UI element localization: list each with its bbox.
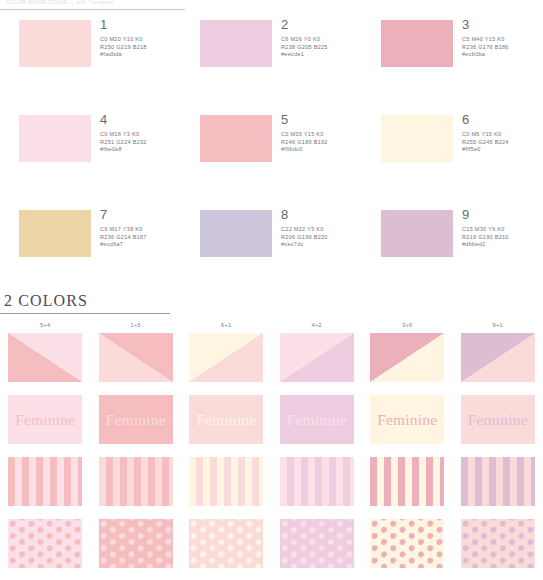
color-chip[interactable] xyxy=(381,210,453,257)
color-chip-meta: 7C9 M17 Y38 K0R236 G214 B167#ecd6a7 xyxy=(100,208,147,249)
dot-pattern xyxy=(461,519,535,568)
swatch-tile[interactable] xyxy=(189,519,263,568)
pair-stripes-6-1[interactable] xyxy=(181,457,272,519)
palette-swatch-6[interactable]: 6C0 M5 Y15 K0R255 G245 B224#fff5e0 xyxy=(362,113,543,208)
swatch-tile[interactable] xyxy=(280,457,354,506)
swatch-tile[interactable]: Feminine xyxy=(8,395,82,444)
swatch-tile[interactable] xyxy=(99,333,173,382)
pair-dots-1-5[interactable] xyxy=(91,519,182,580)
palette-swatch-9[interactable]: 9C15 M30 Y6 K0R219 G190 B210#dbbed2 xyxy=(362,208,543,303)
two-colors-grid: 5+41+56+14+23+69+1 FeminineFeminineFemin… xyxy=(0,320,543,580)
pair-stripes-4-2[interactable] xyxy=(272,457,363,519)
swatch-tile[interactable] xyxy=(280,333,354,382)
color-chip-number: 6 xyxy=(462,113,509,127)
pair-typography-5-4[interactable]: Feminine xyxy=(0,395,91,457)
color-chip[interactable] xyxy=(200,210,272,257)
pair-row-typography: FeminineFeminineFeminineFeminineFeminine… xyxy=(0,395,543,457)
pair-column-label-3-6: 3+6 xyxy=(362,320,453,333)
pair-stripes-1-5[interactable] xyxy=(91,457,182,519)
pair-diagonal-3-6[interactable] xyxy=(362,333,453,395)
color-chip-number: 4 xyxy=(100,113,147,127)
stripe-pattern xyxy=(189,457,263,506)
color-chip-meta: 4C0 M18 Y3 K0R251 G224 B232#fbe0e8 xyxy=(100,113,147,154)
color-chip-hex: #cec7dc xyxy=(281,241,328,249)
swatch-tile[interactable] xyxy=(461,333,535,382)
palette-swatch-1[interactable]: 1C0 M20 Y10 K0R250 G219 B218#fadbda xyxy=(0,18,181,113)
pair-stripes-3-6[interactable] xyxy=(362,457,453,519)
color-chip-rgb: R250 G219 B218 xyxy=(100,44,147,52)
swatch-tile[interactable] xyxy=(189,457,263,506)
diagonal-split xyxy=(8,333,82,382)
diagonal-split xyxy=(370,333,444,382)
color-chip[interactable] xyxy=(200,20,272,67)
pair-typography-4-2[interactable]: Feminine xyxy=(272,395,363,457)
pair-diagonal-9-1[interactable] xyxy=(453,333,543,395)
pair-typography-6-1[interactable]: Feminine xyxy=(181,395,272,457)
color-chip[interactable] xyxy=(19,115,91,162)
pair-column-label-1-5: 1+5 xyxy=(91,320,182,333)
swatch-tile[interactable] xyxy=(8,333,82,382)
color-chip[interactable] xyxy=(381,115,453,162)
swatch-tile[interactable]: Feminine xyxy=(280,395,354,444)
color-chip-number: 9 xyxy=(462,208,509,222)
color-chip-cmyk: C15 M30 Y6 K0 xyxy=(462,226,509,234)
swatch-tile[interactable]: Feminine xyxy=(461,395,535,444)
pair-dots-6-1[interactable] xyxy=(181,519,272,580)
pair-stripes-9-1[interactable] xyxy=(453,457,543,519)
color-chip-rgb: R206 G199 B220 xyxy=(281,234,328,242)
swatch-tile[interactable] xyxy=(99,457,173,506)
palette-swatch-3[interactable]: 3C5 M40 Y15 K0R236 G176 B186#ecb0ba xyxy=(362,18,543,113)
palette-swatch-5[interactable]: 5C0 M35 Y15 K0R246 G189 B192#f6bdc0 xyxy=(181,113,362,208)
color-chip-hex: #dbbed2 xyxy=(462,241,509,249)
color-chip[interactable] xyxy=(200,115,272,162)
color-chip[interactable] xyxy=(19,210,91,257)
palette-swatch-7[interactable]: 7C9 M17 Y38 K0R236 G214 B167#ecd6a7 xyxy=(0,208,181,303)
pair-dots-4-2[interactable] xyxy=(272,519,363,580)
pair-typography-3-6[interactable]: Feminine xyxy=(362,395,453,457)
pair-diagonal-6-1[interactable] xyxy=(181,333,272,395)
stripe-pattern xyxy=(370,457,444,506)
dot-pattern xyxy=(280,519,354,568)
swatch-tile[interactable]: Feminine xyxy=(189,395,263,444)
pair-diagonal-5-4[interactable] xyxy=(0,333,91,395)
pair-dots-5-4[interactable] xyxy=(0,519,91,580)
swatch-tile[interactable] xyxy=(280,519,354,568)
page-header: COLOR IMAGE SCALE — soft / romantic xyxy=(0,0,543,14)
two-colors-title: 2 COLORS xyxy=(0,292,543,310)
swatch-tile[interactable] xyxy=(461,457,535,506)
swatch-tile[interactable] xyxy=(8,519,82,568)
pair-diagonal-1-5[interactable] xyxy=(91,333,182,395)
swatch-tile[interactable] xyxy=(8,457,82,506)
palette-swatch-4[interactable]: 4C0 M18 Y3 K0R251 G224 B232#fbe0e8 xyxy=(0,113,181,208)
dot-pattern xyxy=(189,519,263,568)
color-chip[interactable] xyxy=(19,20,91,67)
color-chip-cmyk: C22 M22 Y5 K0 xyxy=(281,226,328,234)
feminine-word: Feminine xyxy=(280,411,354,429)
pair-diagonal-4-2[interactable] xyxy=(272,333,363,395)
swatch-tile[interactable] xyxy=(370,519,444,568)
pair-typography-1-5[interactable]: Feminine xyxy=(91,395,182,457)
color-chip[interactable] xyxy=(381,20,453,67)
color-chip-number: 5 xyxy=(281,113,328,127)
palette-swatch-2[interactable]: 2C6 M26 Y0 K0R238 G205 B225#eecde1 xyxy=(181,18,362,113)
swatch-tile[interactable]: Feminine xyxy=(99,395,173,444)
page-header-rule xyxy=(0,9,185,10)
swatch-tile[interactable] xyxy=(370,457,444,506)
swatch-tile[interactable] xyxy=(461,519,535,568)
pair-dots-3-6[interactable] xyxy=(362,519,453,580)
feminine-word: Feminine xyxy=(189,411,263,429)
color-chip-meta: 1C0 M20 Y10 K0R250 G219 B218#fadbda xyxy=(100,18,147,59)
palette-swatch-8[interactable]: 8C22 M22 Y5 K0R206 G199 B220#cec7dc xyxy=(181,208,362,303)
pair-typography-9-1[interactable]: Feminine xyxy=(453,395,543,457)
two-colors-rule xyxy=(0,313,170,314)
swatch-tile[interactable] xyxy=(189,333,263,382)
color-chip-rgb: R246 G189 B192 xyxy=(281,139,328,147)
feminine-word: Feminine xyxy=(8,411,82,429)
swatch-tile[interactable] xyxy=(99,519,173,568)
color-chip-meta: 2C6 M26 Y0 K0R238 G205 B225#eecde1 xyxy=(281,18,328,59)
color-chip-hex: #eecde1 xyxy=(281,51,328,59)
pair-dots-9-1[interactable] xyxy=(453,519,543,580)
swatch-tile[interactable]: Feminine xyxy=(370,395,444,444)
pair-stripes-5-4[interactable] xyxy=(0,457,91,519)
swatch-tile[interactable] xyxy=(370,333,444,382)
